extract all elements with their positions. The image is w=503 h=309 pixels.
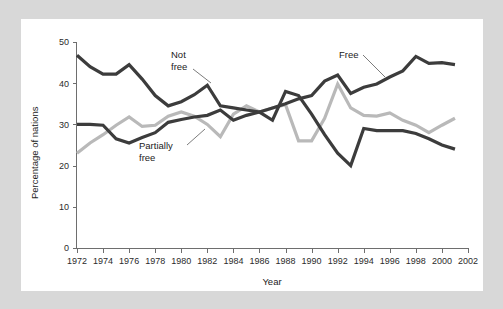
x-tick-label: 1974 xyxy=(93,256,113,266)
x-tick-label: 1972 xyxy=(67,256,87,266)
y-axis-title: Percentage of nations xyxy=(29,106,40,199)
x-tick-label: 1996 xyxy=(380,256,400,266)
y-tick-label: 40 xyxy=(59,79,69,89)
x-tick-label: 1978 xyxy=(145,256,165,266)
x-tick-label: 1976 xyxy=(119,256,139,266)
x-tick-label: 1980 xyxy=(171,256,191,266)
x-tick-label: 1982 xyxy=(197,256,217,266)
x-tick-label: 1994 xyxy=(354,256,374,266)
screenshot-root: 01020304050 1972197419761978198019821984… xyxy=(0,0,503,309)
y-axis-ticks: 01020304050 xyxy=(59,37,77,253)
x-tick-label: 2002 xyxy=(458,256,478,266)
figure-card: 01020304050 1972197419761978198019821984… xyxy=(21,19,483,291)
annotation-free: Free xyxy=(339,49,385,77)
series-line-partially-free xyxy=(77,84,455,153)
annotation-partially-free-leader xyxy=(187,129,205,145)
x-tick-label: 1992 xyxy=(328,256,348,266)
annotation-not-free-line1: Not xyxy=(171,49,186,60)
y-tick-label: 30 xyxy=(59,120,69,130)
y-tick-label: 50 xyxy=(59,37,69,47)
x-tick-label: 1998 xyxy=(406,256,426,266)
x-tick-label: 1986 xyxy=(249,256,269,266)
x-tick-label: 1988 xyxy=(276,256,296,266)
x-axis-ticks: 1972197419761978198019821984198619881990… xyxy=(67,249,478,267)
x-axis-title: Year xyxy=(262,276,281,287)
annotation-not-free: Not free xyxy=(171,49,211,83)
line-chart: 01020304050 1972197419761978198019821984… xyxy=(21,19,483,291)
y-tick-label: 0 xyxy=(64,243,69,253)
y-tick-label: 10 xyxy=(59,202,69,212)
x-tick-label: 2000 xyxy=(432,256,452,266)
annotation-partially-free-line2: free xyxy=(139,152,155,163)
series-group xyxy=(77,55,455,165)
annotation-free-leader xyxy=(363,55,385,77)
annotation-partially-free-line1: Partially xyxy=(139,140,173,151)
y-tick-label: 20 xyxy=(59,161,69,171)
x-tick-label: 1984 xyxy=(223,256,243,266)
x-tick-label: 1990 xyxy=(302,256,322,266)
annotation-not-free-leader xyxy=(193,69,211,83)
annotation-free-line1: Free xyxy=(339,49,359,60)
annotation-not-free-line2: free xyxy=(171,61,187,72)
